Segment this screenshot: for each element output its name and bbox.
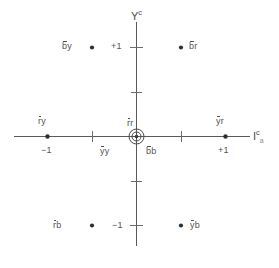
horizontal-axis-label: Ica — [253, 128, 264, 144]
point-label-b-bar-y-bar-char: b — [62, 42, 67, 51]
data-point-b-bar-y — [90, 45, 94, 49]
origin-label-y-bar-y-plain-char: y — [105, 146, 110, 156]
horizontal-axis-label-superscript: c — [256, 128, 260, 137]
origin-label-b-bar-b: bb — [146, 147, 157, 156]
plot-svg — [0, 0, 279, 268]
point-label-y-bar-b: yb — [190, 221, 200, 230]
point-label-r-bar-y-bar-char: r — [38, 117, 41, 126]
point-label-y-bar-r-plain-char: r — [221, 116, 224, 126]
point-label-r-bar-b-bar-char: r — [53, 221, 56, 230]
point-label-y-bar-b-bar-char: y — [190, 221, 195, 230]
horizontal-axis-label-subscript: a — [260, 137, 264, 144]
point-label-y-bar-r: yr — [216, 117, 224, 126]
point-label-r-bar-y: ry — [38, 117, 46, 126]
data-point-r-bar-y — [45, 134, 49, 138]
point-label-y-bar-b-plain-char: b — [195, 220, 200, 230]
tick-label-y-minus-one: −1 — [112, 221, 123, 230]
data-point-b-bar-r — [179, 45, 183, 49]
origin-center-dot — [135, 135, 139, 139]
point-label-b-bar-r: br — [189, 42, 198, 51]
origin-label-y-bar-y-bar-char: y — [100, 147, 105, 156]
data-point-y-bar-b — [179, 223, 183, 227]
tick-label-x-minus-one: −1 — [41, 146, 52, 155]
origin-label-b-bar-b-plain-char: b — [151, 146, 156, 156]
data-point-y-bar-r — [223, 134, 227, 138]
origin-label-b-bar-b-bar-char: b — [146, 147, 151, 156]
point-label-b-bar-r-plain-char: r — [194, 41, 197, 51]
tick-label-x-plus-one: +1 — [218, 146, 229, 155]
point-label-r-bar-b: rb — [53, 221, 62, 230]
tick-label-y-plus-one: +1 — [111, 42, 122, 51]
origin-label-r-bar-r-plain-char: r — [130, 118, 133, 128]
point-label-y-bar-r-bar-char: y — [216, 117, 221, 126]
point-label-r-bar-y-plain-char: y — [41, 116, 46, 126]
point-label-b-bar-y: by — [62, 42, 72, 51]
data-point-r-bar-b — [90, 223, 94, 227]
point-label-b-bar-r-bar-char: b — [189, 42, 194, 51]
diagram-canvas: Yc Ica by br +1 ry −1 yr +1 rr yy bb rb … — [0, 0, 279, 268]
vertical-axis-label: Yc — [131, 8, 142, 22]
origin-label-r-bar-r-bar-char: r — [127, 119, 130, 128]
vertical-axis-label-superscript: c — [138, 8, 142, 17]
origin-label-y-bar-y: yy — [100, 147, 110, 156]
origin-label-r-bar-r: rr — [127, 119, 134, 128]
point-label-b-bar-y-plain-char: y — [67, 41, 72, 51]
point-label-r-bar-b-plain-char: b — [56, 220, 61, 230]
